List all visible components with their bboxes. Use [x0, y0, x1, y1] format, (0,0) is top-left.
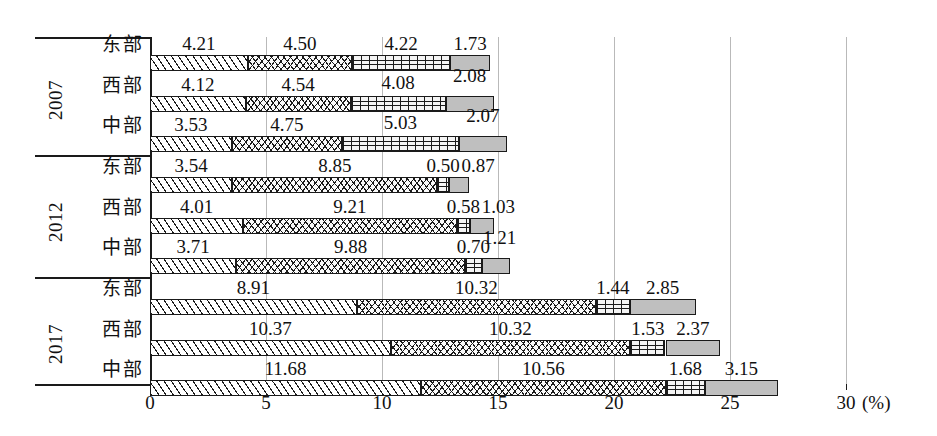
- value-label: 2.08: [453, 65, 486, 86]
- bar-segment-segment-3: [666, 380, 705, 396]
- bar-row: [0, 380, 937, 396]
- bar-row: [0, 258, 937, 274]
- region-label-2012-西部: 西部: [80, 198, 144, 218]
- value-label: 3.15: [725, 358, 758, 379]
- value-label: 4.22: [384, 33, 417, 54]
- bar-segment-segment-2: [236, 258, 465, 274]
- value-label: 9.21: [333, 196, 366, 217]
- value-label: 1.03: [482, 196, 515, 217]
- gridline-20: [614, 37, 615, 384]
- value-label: 4.50: [283, 33, 316, 54]
- bar-segment-segment-1: [150, 340, 391, 356]
- value-label: 0.87: [462, 155, 495, 176]
- bar-segment-segment-1: [150, 299, 357, 315]
- bar-segment-segment-2: [246, 96, 351, 112]
- value-label: 1.68: [669, 358, 702, 379]
- value-label: 3.71: [176, 236, 209, 257]
- bar-segment-segment-1: [150, 218, 243, 234]
- value-label: 2.85: [646, 277, 679, 298]
- bar-segment-segment-2: [357, 299, 596, 315]
- value-label: 8.85: [318, 155, 351, 176]
- bar-segment-segment-3: [465, 258, 481, 274]
- bar-segment-segment-4: [449, 177, 469, 193]
- bar-segment-segment-3: [351, 96, 446, 112]
- bar-segment-segment-3: [342, 136, 459, 152]
- bar-segment-segment-1: [150, 55, 248, 71]
- value-label: 0.50: [427, 155, 460, 176]
- value-label: 1.44: [596, 277, 629, 298]
- bar-segment-segment-1: [150, 258, 236, 274]
- value-label: 3.54: [174, 155, 207, 176]
- region-label-2007-中部: 中部: [80, 116, 144, 136]
- bar-segment-segment-4: [666, 340, 721, 356]
- value-label: 1.53: [631, 318, 664, 339]
- bar-segment-segment-2: [248, 55, 352, 71]
- value-label: 10.56: [522, 358, 565, 379]
- y-axis-line: [150, 37, 152, 384]
- bar-row: [0, 177, 937, 193]
- value-label: 10.32: [489, 318, 532, 339]
- region-label-2017-东部: 东部: [80, 279, 144, 299]
- value-label: 4.01: [180, 196, 213, 217]
- stacked-bar-chart: 051015202530 (%) 200720122017 东部西部中部东部西部…: [0, 0, 937, 436]
- bar-segment-segment-3: [457, 218, 470, 234]
- value-label: 5.03: [384, 112, 417, 133]
- bar-segment-segment-3: [596, 299, 629, 315]
- value-label: 4.75: [270, 114, 303, 135]
- bar-segment-segment-2: [421, 380, 666, 396]
- bar-segment-segment-2: [391, 340, 630, 356]
- value-label: 3.53: [174, 114, 207, 135]
- region-label-2012-东部: 东部: [80, 157, 144, 177]
- bar-row: [0, 340, 937, 356]
- bar-segment-segment-3: [352, 55, 450, 71]
- bar-segment-segment-1: [150, 380, 421, 396]
- region-label-2007-东部: 东部: [80, 35, 144, 55]
- value-label: 9.88: [334, 236, 367, 257]
- bar-segment-segment-1: [150, 136, 232, 152]
- bar-segment-segment-2: [232, 136, 342, 152]
- bar-segment-segment-1: [150, 96, 246, 112]
- value-label: 2.37: [676, 318, 709, 339]
- bar-segment-segment-3: [630, 340, 665, 356]
- value-label: 0.58: [447, 196, 480, 217]
- bar-segment-segment-2: [243, 218, 457, 234]
- bar-segment-segment-4: [630, 299, 696, 315]
- bar-segment-segment-4: [459, 136, 507, 152]
- bar-segment-segment-3: [437, 177, 449, 193]
- value-label: 1.73: [453, 33, 486, 54]
- gridline-25: [730, 37, 731, 384]
- value-label: 4.21: [182, 33, 215, 54]
- value-label: 1.21: [483, 227, 516, 248]
- value-label: 10.32: [455, 277, 498, 298]
- bar-segment-segment-2: [232, 177, 437, 193]
- value-label: 4.54: [282, 74, 315, 95]
- region-label-2012-中部: 中部: [80, 238, 144, 258]
- value-label: 2.07: [466, 105, 499, 126]
- gridline-30: [846, 37, 847, 384]
- bar-row: [0, 136, 937, 152]
- region-label-2007-西部: 西部: [80, 76, 144, 96]
- bar-row: [0, 299, 937, 315]
- value-label: 10.37: [249, 318, 292, 339]
- bar-row: [0, 218, 937, 234]
- value-label: 4.08: [382, 72, 415, 93]
- value-label: 4.12: [181, 74, 214, 95]
- value-label: 8.91: [237, 277, 270, 298]
- value-label: 11.68: [264, 358, 306, 379]
- bar-segment-segment-4: [482, 258, 510, 274]
- plot-area: 051015202530 (%) 200720122017 东部西部中部东部西部…: [0, 0, 937, 436]
- region-label-2017-西部: 西部: [80, 320, 144, 340]
- bar-segment-segment-1: [150, 177, 232, 193]
- bar-segment-segment-4: [705, 380, 778, 396]
- region-label-2017-中部: 中部: [80, 360, 144, 380]
